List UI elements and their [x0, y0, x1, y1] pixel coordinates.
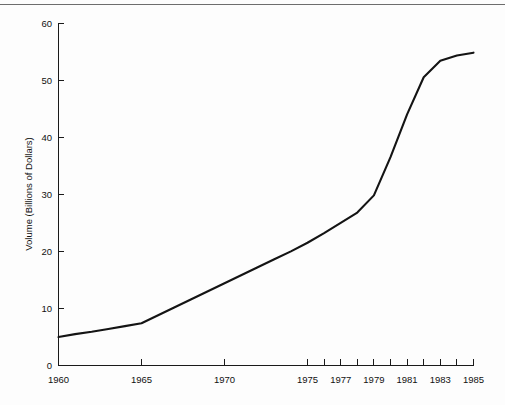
y-axis-tick-labels: 60 50 40 30 20 10 0 — [41, 18, 52, 371]
y-tick-label-0: 0 — [47, 360, 52, 371]
x-tick-label-1981: 1981 — [397, 374, 418, 385]
x-tick-label-1983: 1983 — [430, 374, 451, 385]
chart-canvas: 60 50 40 30 20 10 0 Volume (Billions of … — [0, 0, 505, 405]
x-tick-label-1977: 1977 — [330, 374, 351, 385]
y-axis-ticks — [59, 24, 65, 309]
data-series-volume — [59, 53, 474, 337]
x-tick-label-1960: 1960 — [48, 374, 69, 385]
line-chart-figure: 60 50 40 30 20 10 0 Volume (Billions of … — [0, 0, 505, 405]
y-tick-label-40: 40 — [41, 132, 52, 143]
x-tick-label-1965: 1965 — [131, 374, 152, 385]
x-axis-ticks — [142, 359, 474, 366]
x-tick-label-1975: 1975 — [297, 374, 318, 385]
x-axis-tick-labels: 1960 1965 1970 1975 1977 1979 1981 1983 … — [48, 374, 484, 385]
y-tick-label-20: 20 — [41, 246, 52, 257]
y-tick-label-30: 30 — [41, 189, 52, 200]
y-tick-label-50: 50 — [41, 75, 52, 86]
y-tick-label-10: 10 — [41, 303, 52, 314]
x-tick-label-1979: 1979 — [363, 374, 384, 385]
x-tick-label-1970: 1970 — [214, 374, 235, 385]
x-tick-label-1985: 1985 — [463, 374, 484, 385]
y-axis-title: Volume (Billions of Dollars) — [23, 137, 34, 251]
y-tick-label-60: 60 — [41, 18, 52, 29]
